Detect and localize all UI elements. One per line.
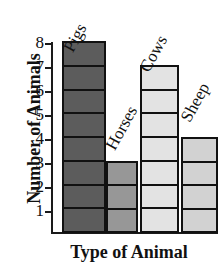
plot-area: PigsHorsesCowsSheep xyxy=(52,20,218,233)
y-axis-tick xyxy=(45,139,52,141)
bar-segment xyxy=(64,114,104,138)
bar-segment xyxy=(64,186,104,210)
y-axis-tick-label: 5 xyxy=(22,106,44,123)
bar-pigs xyxy=(62,41,106,233)
x-axis-title: Type of Animal xyxy=(40,242,218,263)
y-axis-tick-labels: 12345678 xyxy=(18,0,44,267)
y-axis-tick-label: 4 xyxy=(22,130,44,147)
bar-horses xyxy=(106,161,138,233)
bar-segment xyxy=(183,210,216,232)
y-axis-tick-label: 7 xyxy=(22,58,44,75)
bar-segment xyxy=(64,138,104,162)
category-label-horses: Horses xyxy=(103,103,141,153)
bar-chart: Number of Animals 12345678 PigsHorsesCow… xyxy=(0,0,218,267)
y-axis-tick xyxy=(45,43,52,45)
y-axis-tick xyxy=(45,211,52,213)
y-axis-tick xyxy=(45,187,52,189)
bar-segment xyxy=(142,138,177,162)
y-axis-tick-label: 8 xyxy=(22,34,44,51)
bar-segment xyxy=(183,186,216,210)
bar-segment xyxy=(142,186,177,210)
bar-segment xyxy=(142,91,177,115)
y-axis-tick-label: 2 xyxy=(22,178,44,195)
category-label-sheep: Sheep xyxy=(178,80,213,125)
y-axis-tick xyxy=(45,91,52,93)
bar-segment xyxy=(183,139,216,163)
bar-segment xyxy=(64,91,104,115)
bar-segment xyxy=(183,163,216,187)
bar-segment xyxy=(64,162,104,186)
bar-segment xyxy=(142,209,177,231)
y-axis-tick xyxy=(45,67,52,69)
bar-segment xyxy=(142,114,177,138)
y-axis-tick-label: 1 xyxy=(22,202,44,219)
bar-segment xyxy=(142,162,177,186)
y-axis-tick xyxy=(45,163,52,165)
bar-segment xyxy=(108,163,136,186)
bar-segment xyxy=(108,186,136,209)
bar-cows xyxy=(140,65,179,233)
bar-segment xyxy=(64,209,104,231)
y-axis-tick xyxy=(45,115,52,117)
y-axis-tick-label: 3 xyxy=(22,154,44,171)
bar-segment xyxy=(108,210,136,231)
bar-segment xyxy=(64,67,104,91)
y-axis-tick-label: 6 xyxy=(22,82,44,99)
bar-sheep xyxy=(181,137,218,233)
